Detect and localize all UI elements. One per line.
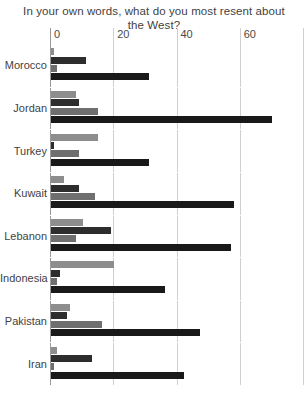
group-separator — [50, 342, 303, 343]
bar-turkey-series-3 — [51, 150, 79, 157]
x-tick-label-60: 60 — [244, 28, 256, 40]
group-separator — [50, 87, 303, 88]
bar-iran-series-1 — [51, 347, 57, 354]
plot-area — [50, 44, 303, 385]
bar-morocco-series-2 — [51, 57, 86, 64]
category-label-kuwait: Kuwait — [0, 187, 47, 199]
bar-lebanon-series-3 — [51, 235, 76, 242]
bar-iran-series-4 — [51, 372, 184, 379]
bar-jordan-series-2 — [51, 99, 79, 106]
bar-turkey-series-4 — [51, 159, 149, 166]
category-label-pakistan: Pakistan — [0, 315, 47, 327]
bar-kuwait-series-3 — [51, 193, 95, 200]
bar-indonesia-series-3 — [51, 278, 57, 285]
group-separator — [50, 257, 303, 258]
category-label-morocco: Morocco — [0, 59, 47, 71]
x-tick-label-20: 20 — [117, 28, 129, 40]
bar-iran-series-3 — [51, 363, 54, 370]
bar-indonesia-series-1 — [51, 261, 114, 268]
category-label-lebanon: Lebanon — [0, 230, 47, 242]
bar-morocco-series-1 — [51, 48, 54, 55]
bar-pakistan-series-2 — [51, 312, 67, 319]
bar-indonesia-series-2 — [51, 270, 60, 277]
bar-pakistan-series-3 — [51, 321, 102, 328]
bar-iran-series-2 — [51, 355, 92, 362]
category-label-iran: Iran — [0, 358, 47, 370]
x-tick-label-0: 0 — [54, 28, 60, 40]
bar-jordan-series-3 — [51, 108, 98, 115]
group-separator — [50, 172, 303, 173]
chart: In your own words, what do you most rese… — [0, 0, 307, 401]
group-separator — [50, 129, 303, 130]
bar-pakistan-series-4 — [51, 329, 200, 336]
gridline-80 — [303, 28, 304, 385]
bar-indonesia-series-4 — [51, 286, 165, 293]
bar-morocco-series-3 — [51, 65, 57, 72]
bar-jordan-series-1 — [51, 91, 76, 98]
group-separator — [50, 215, 303, 216]
bar-lebanon-series-1 — [51, 219, 83, 226]
bar-lebanon-series-2 — [51, 227, 111, 234]
bar-pakistan-series-1 — [51, 304, 70, 311]
bar-lebanon-series-4 — [51, 244, 231, 251]
bar-turkey-series-2 — [51, 142, 54, 149]
gridline-60 — [240, 28, 241, 385]
y-axis-category-labels: MoroccoJordanTurkeyKuwaitLebanonIndonesi… — [0, 44, 47, 385]
bar-turkey-series-1 — [51, 134, 98, 141]
category-label-indonesia: Indonesia — [0, 272, 47, 284]
bar-jordan-series-4 — [51, 116, 272, 123]
bar-kuwait-series-4 — [51, 201, 234, 208]
category-label-jordan: Jordan — [0, 102, 47, 114]
x-tick-label-40: 40 — [181, 28, 193, 40]
bar-kuwait-series-2 — [51, 185, 79, 192]
category-label-turkey: Turkey — [0, 145, 47, 157]
bar-morocco-series-4 — [51, 73, 149, 80]
bar-kuwait-series-1 — [51, 176, 64, 183]
x-axis-tick-labels: 02040608 — [50, 28, 307, 42]
group-separator — [50, 300, 303, 301]
